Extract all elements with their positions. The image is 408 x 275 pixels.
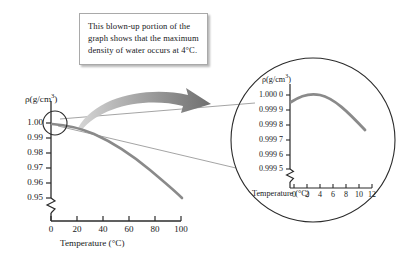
main-ytick-label: 0.96 [13, 177, 43, 187]
main-xtick-label: 100 [170, 224, 192, 234]
main-y-axis-label: ρ(g/cm3) [25, 92, 57, 104]
main-xtick-label: 80 [144, 224, 166, 234]
main-ytick-label: 0.97 [13, 162, 43, 172]
leader-lines [58, 103, 255, 168]
main-density-curve [52, 124, 182, 198]
main-y-axis-units-exponent: 3 [51, 92, 54, 99]
inset-y-axis-units: (g/cm [266, 75, 285, 84]
main-xtick-label: 60 [118, 224, 140, 234]
inset-x-axis-label: Temperature (°C) [252, 189, 309, 198]
inset-ytick-label: 0.999 6 [239, 150, 283, 159]
inset-ytick-label: 1.000 0 [239, 90, 283, 99]
main-xtick-label: 0 [40, 224, 62, 234]
main-y-axis-units: (g/cm [30, 94, 51, 104]
inset-xtick-label: 12 [364, 190, 380, 199]
main-xtick-label: 20 [66, 224, 88, 234]
inset-ytick-label: 0.999 8 [239, 120, 283, 129]
figure-canvas: This blown-up portion of the graph shows… [0, 0, 408, 275]
main-ytick-label: 0.98 [13, 147, 43, 157]
inset-density-curve [291, 94, 365, 130]
main-xtick-label: 40 [92, 224, 114, 234]
main-ytick-label: 0.95 [13, 192, 43, 202]
main-y-axis-break [47, 198, 55, 213]
inset-y-axis-break [287, 169, 294, 182]
inset-ytick-label: 0.999 9 [239, 105, 283, 114]
inset-ytick-label: 0.999 5 [239, 164, 283, 173]
inset-y-axis-units-exponent: 3 [285, 73, 288, 79]
main-x-axis-label: Temperature (°C) [60, 238, 125, 248]
main-ytick-label: 1.00 [13, 117, 43, 127]
inset-ytick-label: 0.999 7 [239, 135, 283, 144]
inset-y-axis-label: ρ(g/cm3) [262, 73, 291, 84]
main-ytick-label: 0.99 [13, 132, 43, 142]
blowup-arrow [78, 88, 211, 131]
